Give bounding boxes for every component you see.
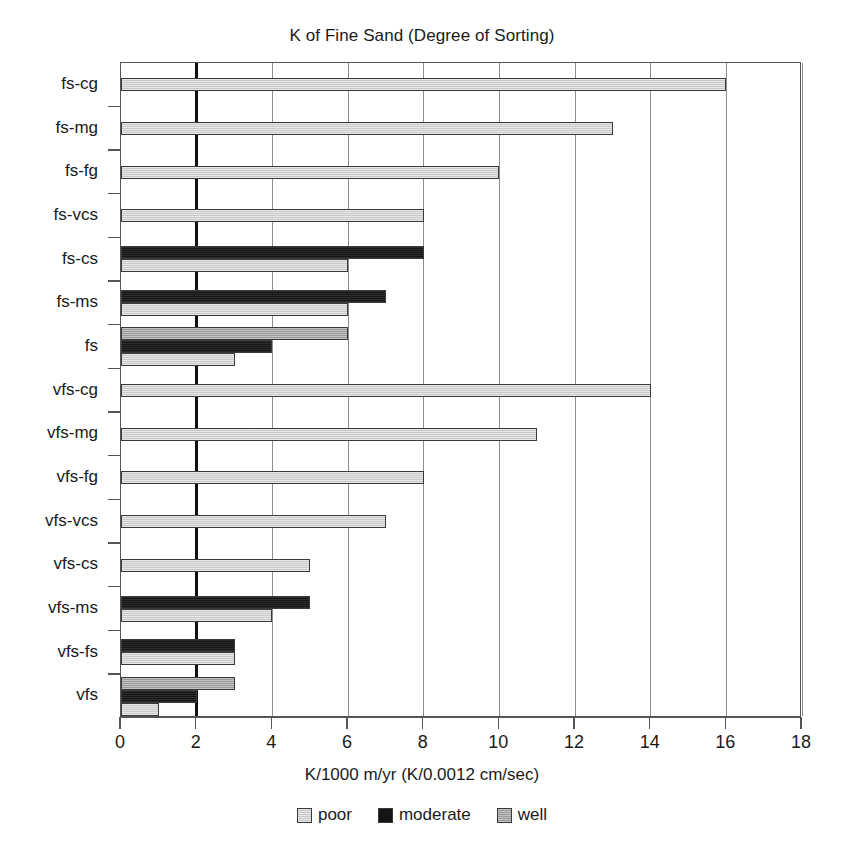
- bar-group-vfs-mg: [121, 412, 800, 456]
- x-axis-title: K/1000 m/yr (K/0.0012 cm/sec): [0, 765, 844, 785]
- bar-fs-cg-poor: [121, 78, 726, 91]
- y-tick-8: [108, 411, 120, 412]
- bar-group-vfs: [121, 674, 800, 718]
- bar-fs-ms-moderate: [121, 290, 386, 303]
- chart-title: K of Fine Sand (Degree of Sorting): [0, 26, 844, 46]
- bar-group-fs-vcs: [121, 194, 800, 238]
- chart-legend: poormoderatewell: [0, 805, 844, 825]
- y-axis-label-fs-fg: fs-fg: [65, 161, 98, 181]
- x-tick-10: [498, 717, 499, 729]
- y-axis-label-vfs-cs: vfs-cs: [54, 554, 98, 574]
- x-axis-label-12: 12: [564, 732, 584, 753]
- y-tick-7: [108, 368, 120, 369]
- bar-vfs-mg-poor: [121, 428, 537, 441]
- bar-vfs-fs-poor: [121, 652, 235, 665]
- x-axis-label-16: 16: [715, 732, 735, 753]
- gridline-18: [802, 63, 803, 716]
- bar-vfs-cs-poor: [121, 559, 310, 572]
- x-tick-18: [800, 717, 801, 729]
- bar-group-fs-cs: [121, 238, 800, 282]
- bar-group-fs-fg: [121, 150, 800, 194]
- bar-fs-cs-moderate: [121, 246, 424, 259]
- bar-group-vfs-cg: [121, 369, 800, 413]
- bar-group-vfs-fs: [121, 631, 800, 675]
- bar-fs-vcs-poor: [121, 209, 424, 222]
- x-axis-label-0: 0: [115, 732, 125, 753]
- y-tick-9: [108, 455, 120, 456]
- x-tick-8: [422, 717, 423, 729]
- bar-fs-moderate: [121, 340, 272, 353]
- legend-label-well: well: [518, 805, 547, 825]
- x-axis-label-18: 18: [791, 732, 811, 753]
- bar-rows: [121, 63, 800, 716]
- bar-group-fs-cg: [121, 63, 800, 107]
- bar-fs-ms-poor: [121, 303, 348, 316]
- x-axis-line: [120, 717, 801, 718]
- bar-group-vfs-fg: [121, 456, 800, 500]
- y-tick-14: [108, 673, 120, 674]
- bar-group-vfs-cs: [121, 543, 800, 587]
- bar-group-fs-mg: [121, 107, 800, 151]
- legend-item-poor: poor: [297, 805, 352, 825]
- bar-vfs-ms-poor: [121, 609, 272, 622]
- bar-fs-poor: [121, 353, 235, 366]
- bar-vfs-well: [121, 677, 235, 690]
- legend-label-poor: poor: [318, 805, 352, 825]
- y-tick-2: [108, 149, 120, 150]
- x-tick-2: [195, 717, 196, 729]
- y-axis-label-vfs-cg: vfs-cg: [53, 380, 98, 400]
- y-tick-5: [108, 280, 120, 281]
- bar-fs-cs-poor: [121, 259, 348, 272]
- y-tick-1: [108, 106, 120, 107]
- bar-fs-mg-poor: [121, 122, 613, 135]
- y-axis-label-fs-mg: fs-mg: [56, 118, 99, 138]
- legend-swatch-moderate-icon: [378, 808, 393, 823]
- bar-vfs-ms-moderate: [121, 596, 310, 609]
- x-axis-label-2: 2: [191, 732, 201, 753]
- y-axis-label-vfs-fs: vfs-fs: [57, 642, 98, 662]
- bar-vfs-fs-moderate: [121, 639, 235, 652]
- y-axis-label-fs-ms: fs-ms: [56, 292, 98, 312]
- x-tick-4: [271, 717, 272, 729]
- bar-group-fs: [121, 325, 800, 369]
- y-tick-4: [108, 237, 120, 238]
- x-axis-label-10: 10: [488, 732, 508, 753]
- bar-fs-fg-poor: [121, 166, 499, 179]
- x-axis-label-14: 14: [640, 732, 660, 753]
- plot-area: [120, 62, 801, 717]
- chart-root: K of Fine Sand (Degree of Sorting) fs-cg…: [0, 0, 844, 857]
- x-tick-0: [119, 717, 120, 729]
- legend-item-moderate: moderate: [378, 805, 471, 825]
- x-tick-16: [725, 717, 726, 729]
- x-tick-14: [649, 717, 650, 729]
- x-tick-6: [346, 717, 347, 729]
- y-axis-label-vfs-vcs: vfs-vcs: [45, 511, 98, 531]
- y-axis-label-vfs-fg: vfs-fg: [56, 467, 98, 487]
- legend-label-moderate: moderate: [399, 805, 471, 825]
- x-tick-12: [573, 717, 574, 729]
- y-tick-6: [108, 324, 120, 325]
- y-axis: fs-cgfs-mgfs-fgfs-vcsfs-csfs-msfsvfs-cgv…: [0, 62, 120, 717]
- y-tick-3: [108, 193, 120, 194]
- bar-group-vfs-ms: [121, 587, 800, 631]
- x-axis-label-6: 6: [342, 732, 352, 753]
- y-tick-11: [108, 542, 120, 543]
- x-axis-label-8: 8: [418, 732, 428, 753]
- legend-item-well: well: [497, 805, 547, 825]
- bar-fs-well: [121, 327, 348, 340]
- y-tick-13: [108, 630, 120, 631]
- bar-group-vfs-vcs: [121, 500, 800, 544]
- bar-vfs-cg-poor: [121, 384, 651, 397]
- x-axis-label-4: 4: [266, 732, 276, 753]
- y-axis-label-vfs-ms: vfs-ms: [48, 598, 98, 618]
- y-axis-label-fs: fs: [85, 336, 98, 356]
- y-tick-10: [108, 499, 120, 500]
- legend-swatch-well-icon: [497, 808, 512, 823]
- y-tick-12: [108, 586, 120, 587]
- y-axis-label-vfs: vfs: [76, 685, 98, 705]
- y-axis-label-fs-vcs: fs-vcs: [54, 205, 98, 225]
- bar-vfs-vcs-poor: [121, 515, 386, 528]
- bar-group-fs-ms: [121, 281, 800, 325]
- y-axis-label-vfs-mg: vfs-mg: [47, 423, 98, 443]
- bar-vfs-moderate: [121, 690, 197, 703]
